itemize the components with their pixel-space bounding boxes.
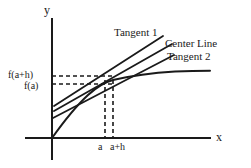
- tangent-2-label: Tangent 2: [167, 51, 211, 62]
- function-curve: [52, 71, 210, 138]
- tangent-1-label: Tangent 1: [114, 27, 158, 38]
- x-tick-label-a-plus-h: a+h: [110, 142, 125, 152]
- tangent-line-diagram: y x Tangent 1 Center Line Tangent 2 f(a+…: [0, 0, 251, 168]
- y-axis-label: y: [44, 4, 50, 16]
- x-tick-label-a: a: [98, 142, 102, 152]
- tangent-1-line: [54, 36, 163, 106]
- x-axis-label: x: [216, 131, 222, 143]
- center-line-label: Center Line: [165, 38, 217, 49]
- f-a-value-label: f(a): [24, 81, 38, 91]
- f-a-plus-h-value-label: f(a+h): [8, 70, 33, 80]
- center-line: [54, 44, 172, 111]
